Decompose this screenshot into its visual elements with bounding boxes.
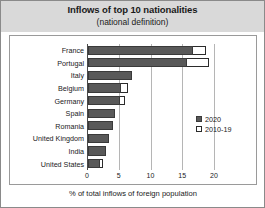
bar-2020 bbox=[88, 146, 106, 155]
bar-row: United Kingdom bbox=[87, 132, 214, 145]
bar-row: Germany bbox=[87, 94, 214, 107]
chart-title: Inflows of top 10 nationalities bbox=[1, 3, 264, 16]
bar-row: France bbox=[87, 44, 214, 57]
bar-row: Italy bbox=[87, 69, 214, 82]
chart-legend: 2020 2010-19 bbox=[196, 114, 231, 134]
bar-row: United States bbox=[87, 157, 214, 170]
category-label: Belgium bbox=[58, 84, 84, 93]
y-axis-line bbox=[87, 44, 88, 170]
chart-figure: Inflows of top 10 nationalities (nationa… bbox=[0, 0, 265, 208]
legend-item-2020: 2020 bbox=[196, 114, 231, 124]
category-label: India bbox=[68, 147, 84, 156]
gridline bbox=[214, 44, 215, 170]
legend-label-2020: 2020 bbox=[205, 115, 221, 124]
category-label: United States bbox=[41, 159, 84, 168]
category-label: United Kingdom bbox=[33, 134, 84, 143]
chart-subtitle: (national definition) bbox=[1, 16, 264, 29]
category-label: Romania bbox=[55, 121, 84, 130]
legend-swatch-filled-icon bbox=[196, 116, 202, 122]
bar-2020 bbox=[88, 58, 187, 67]
bar-rows: FrancePortugalItalyBelgiumGermanySpainRo… bbox=[87, 44, 214, 170]
bar-2020 bbox=[88, 96, 120, 105]
x-tick-label: 0 bbox=[85, 172, 89, 179]
bar-2020 bbox=[88, 46, 193, 55]
category-label: Portugal bbox=[57, 58, 84, 67]
category-label: Spain bbox=[66, 109, 84, 118]
category-label: Germany bbox=[54, 96, 84, 105]
bar-2020 bbox=[88, 83, 121, 92]
bar-row: Spain bbox=[87, 107, 214, 120]
bar-2020 bbox=[88, 159, 100, 168]
bar-2020 bbox=[88, 134, 109, 143]
bar-2020 bbox=[88, 71, 132, 80]
bar-2020 bbox=[88, 121, 113, 130]
category-label: Italy bbox=[71, 71, 84, 80]
category-label: France bbox=[62, 46, 84, 55]
legend-label-2010-19: 2010-19 bbox=[205, 125, 231, 134]
x-axis-title: % of total inflows of foreign population bbox=[9, 189, 257, 198]
bar-row: Belgium bbox=[87, 82, 214, 95]
x-tick-label: 20 bbox=[210, 172, 218, 179]
bar-row: Portugal bbox=[87, 57, 214, 70]
bar-row: India bbox=[87, 145, 214, 158]
legend-item-2010-19: 2010-19 bbox=[196, 124, 231, 134]
chart-title-band: Inflows of top 10 nationalities (nationa… bbox=[1, 1, 264, 32]
plot-area: FrancePortugalItalyBelgiumGermanySpainRo… bbox=[87, 44, 214, 170]
bar-row: Romania bbox=[87, 120, 214, 133]
x-tick-label: 5 bbox=[117, 172, 121, 179]
plot-frame: FrancePortugalItalyBelgiumGermanySpainRo… bbox=[9, 35, 257, 185]
x-tick-label: 10 bbox=[147, 172, 155, 179]
x-tick-label: 15 bbox=[178, 172, 186, 179]
bar-2020 bbox=[88, 109, 115, 118]
legend-swatch-hollow-icon bbox=[196, 126, 202, 132]
